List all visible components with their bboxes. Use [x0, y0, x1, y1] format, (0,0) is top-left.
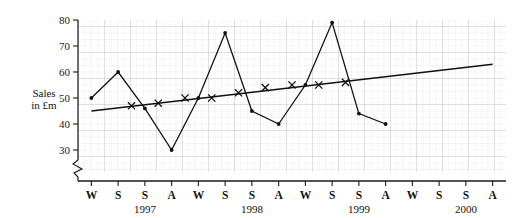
y-tick-label-60: 60 — [59, 66, 71, 78]
sales-data-point — [303, 83, 307, 87]
y-axis-label-line2: in £m — [31, 99, 57, 111]
sales-data-point — [223, 31, 227, 35]
sales-data-point — [116, 70, 120, 74]
x-axis — [78, 181, 506, 186]
year-label: 1997 — [134, 203, 157, 215]
sales-data-point — [384, 122, 388, 126]
year-label: 1999 — [348, 203, 371, 215]
sales-line-chart: 80 70 60 50 40 30 Sales in £m WSSAWSSAWS… — [0, 0, 524, 218]
x-tick-label: S — [222, 189, 228, 201]
x-tick-label: S — [329, 189, 335, 201]
plot-grid — [78, 20, 506, 172]
sales-data-point — [330, 21, 334, 25]
y-tick-label-40: 40 — [59, 118, 71, 130]
x-tick-label: A — [488, 189, 497, 201]
x-tick-label: A — [274, 189, 283, 201]
year-label: 1998 — [241, 203, 264, 215]
year-label-group: 1997199819992000 — [134, 203, 478, 215]
chart-canvas: 80 70 60 50 40 30 Sales in £m WSSAWSSAWS… — [0, 0, 524, 218]
sales-data-point — [143, 107, 147, 111]
x-tick-label: A — [381, 189, 390, 201]
sales-data-point — [277, 122, 281, 126]
x-tick-label: S — [463, 189, 469, 201]
x-tick-label: W — [407, 189, 419, 201]
x-tick-label: W — [300, 189, 312, 201]
x-tick-label: S — [436, 189, 442, 201]
x-tick-label-group: WSSAWSSAWSSAWSSA — [86, 189, 498, 201]
x-tick-marks — [91, 181, 492, 186]
y-tick-label-50: 50 — [59, 92, 71, 104]
y-tick-label-80: 80 — [59, 14, 71, 26]
year-label: 2000 — [455, 203, 478, 215]
sales-data-point — [196, 96, 200, 100]
x-tick-label: S — [356, 189, 362, 201]
x-tick-label: W — [193, 189, 205, 201]
sales-data-point — [170, 148, 174, 152]
x-tick-label: S — [115, 189, 121, 201]
y-axis-label-line1: Sales — [32, 87, 55, 99]
sales-data-point — [250, 109, 254, 113]
x-tick-label: S — [249, 189, 255, 201]
sales-data-point — [89, 96, 93, 100]
x-tick-label: W — [86, 189, 98, 201]
sales-data-point — [357, 112, 361, 116]
y-tick-label-30: 30 — [59, 144, 71, 156]
x-tick-label: S — [142, 189, 148, 201]
y-tick-label-70: 70 — [59, 40, 71, 52]
x-tick-label: A — [167, 189, 176, 201]
